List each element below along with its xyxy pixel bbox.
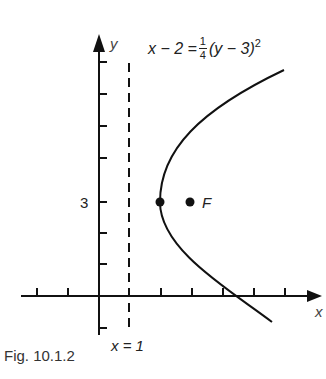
parabola-curve (160, 70, 284, 322)
figure-10-1-2: x − 2 = 1 4 (y − 3) 2 y x 3 F x = 1 Fig.… (0, 0, 326, 379)
equation-label: x − 2 = 1 4 (y − 3) 2 (148, 36, 261, 61)
fraction-numerator: 1 (200, 36, 206, 47)
fraction-denominator: 4 (200, 50, 206, 61)
x-ticks (37, 288, 285, 296)
focus-point (186, 198, 195, 207)
equation-exponent: 2 (255, 38, 261, 49)
equation-lhs: x − 2 = (148, 41, 197, 57)
y-ticks (99, 62, 107, 328)
equation-fraction: 1 4 (199, 36, 207, 61)
y-tick-label-3: 3 (80, 195, 88, 210)
x-axis-arrow-icon (307, 290, 322, 302)
y-axis-label: y (110, 36, 118, 51)
figure-caption: Fig. 10.1.2 (4, 348, 75, 363)
focus-label: F (202, 195, 211, 210)
vertex-point (156, 198, 165, 207)
y-axis-arrow-icon (93, 34, 105, 52)
equation-rhs: (y − 3) (209, 41, 255, 57)
directrix-label: x = 1 (111, 338, 144, 353)
x-axis-label: x (315, 304, 323, 319)
